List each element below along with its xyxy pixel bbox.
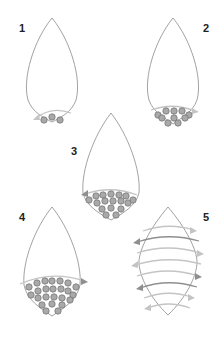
arrow-right-icon (195, 273, 202, 280)
thread-paths (131, 226, 204, 311)
arrow-right-icon (81, 278, 88, 285)
arrow-left-icon (33, 114, 40, 120)
step-5-panel: 5 (131, 207, 209, 315)
step-5-label: 5 (203, 211, 209, 223)
arrow-left-icon (131, 261, 138, 268)
bead-group (26, 278, 79, 314)
step-3-label: 3 (71, 145, 77, 157)
step-4-panel: 4 (19, 207, 88, 316)
arrow-right-icon (192, 108, 199, 114)
arrow-left-icon (144, 304, 151, 311)
arrow-right-icon (197, 250, 204, 257)
arrow-right-icon (190, 227, 197, 234)
beading-diagram: 1 2 3 (0, 0, 224, 338)
step-2-label: 2 (203, 22, 209, 34)
step-1-panel: 1 (19, 18, 78, 123)
step-3-panel: 3 (71, 113, 139, 220)
step-1-label: 1 (19, 22, 25, 34)
arrow-left-icon (133, 238, 140, 245)
arrow-right-icon (188, 294, 195, 301)
leaf-outline (26, 18, 77, 122)
arrow-left-icon (136, 284, 143, 291)
step-4-label: 4 (19, 211, 26, 223)
bead-group (86, 191, 136, 218)
step-2-panel: 2 (147, 18, 209, 126)
arrow-left-icon (81, 190, 88, 197)
